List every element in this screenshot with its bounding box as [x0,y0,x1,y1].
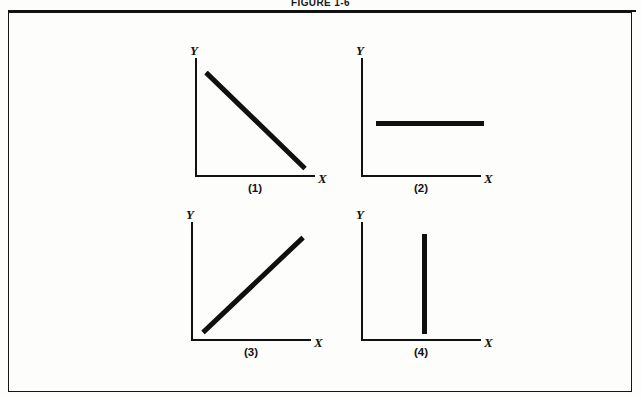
panel-1-x-axis-label: X [318,172,327,185]
panel-4-x-axis-label: X [484,336,493,349]
panel-2-y-axis-label: Y [356,44,364,57]
panel-4-y-axis-label: Y [356,208,364,221]
panel-1-y-axis [195,58,197,177]
panel-4-x-axis [361,339,481,341]
panel-3-caption: (3) [211,346,291,358]
panel-4-caption: (4) [381,346,461,358]
panel-3-x-axis-label: X [314,336,323,349]
panel-2-caption: (2) [381,182,461,194]
panel-3-y-axis [191,222,193,341]
panel-1-caption: (1) [215,182,295,194]
panel-2-x-axis [361,175,481,177]
panel-4-y-axis [361,222,363,341]
panel-2-y-axis [361,58,363,177]
figure-title: FIGURE 1-6 [0,0,641,8]
panel-1-x-axis [195,175,315,177]
panel-1-y-axis-label: Y [190,44,198,57]
panel-3-x-axis [191,339,311,341]
panel-3-y-axis-label: Y [186,208,194,221]
figure-page: FIGURE 1-6 Y X (1) Y X (2) Y X (3) [0,0,641,399]
panel-2-data-line [376,121,484,126]
panel-2-x-axis-label: X [484,172,493,185]
panel-4-data-line [422,234,427,334]
